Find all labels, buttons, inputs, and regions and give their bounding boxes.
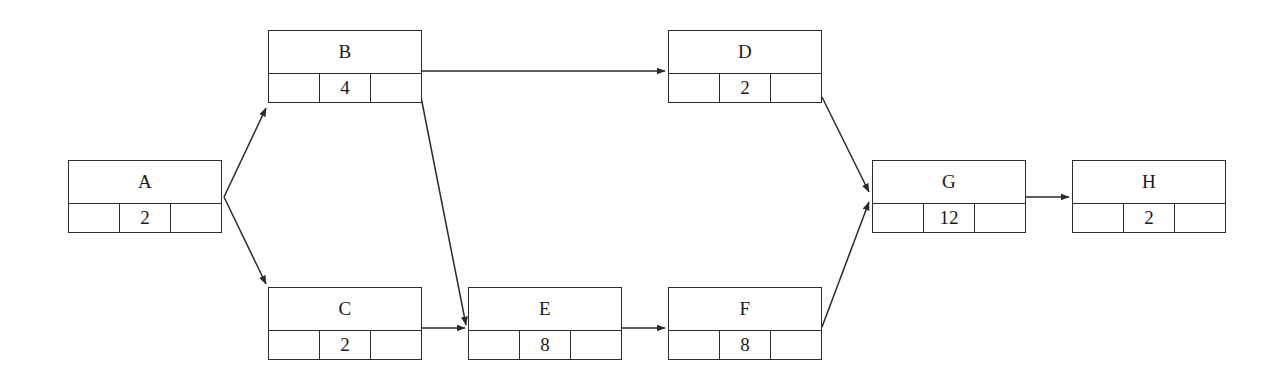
node-a[interactable]: A2 xyxy=(68,160,222,233)
node-h-left-cell xyxy=(1073,204,1123,232)
node-b-right-cell xyxy=(371,74,421,102)
node-a-right-cell xyxy=(171,204,221,232)
node-b-left-cell xyxy=(269,74,319,102)
node-b[interactable]: B4 xyxy=(268,30,422,103)
edge-d-to-g xyxy=(822,97,869,192)
node-e-left-cell xyxy=(469,331,519,359)
node-d-duration-cell: 2 xyxy=(719,74,771,102)
node-g-left-cell xyxy=(873,204,923,232)
node-g-cells: 12 xyxy=(873,203,1025,232)
node-d[interactable]: D2 xyxy=(668,30,822,103)
node-g-label: G xyxy=(873,161,1025,203)
node-e[interactable]: E8 xyxy=(468,287,622,360)
node-c-left-cell xyxy=(269,331,319,359)
edge-b-to-e xyxy=(421,97,466,325)
node-f-duration-cell: 8 xyxy=(719,331,771,359)
edge-f-to-g xyxy=(822,202,869,327)
edge-a-to-c xyxy=(224,197,266,284)
node-h-right-cell xyxy=(1175,204,1225,232)
node-c-duration-cell: 2 xyxy=(319,331,371,359)
node-h[interactable]: H2 xyxy=(1072,160,1226,233)
node-b-cells: 4 xyxy=(269,73,421,102)
node-c[interactable]: C2 xyxy=(268,287,422,360)
node-d-left-cell xyxy=(669,74,719,102)
node-f[interactable]: F8 xyxy=(668,287,822,360)
node-e-right-cell xyxy=(571,331,621,359)
node-d-label: D xyxy=(669,31,821,73)
node-f-cells: 8 xyxy=(669,330,821,359)
node-a-left-cell xyxy=(69,204,119,232)
node-c-cells: 2 xyxy=(269,330,421,359)
node-a-label: A xyxy=(69,161,221,203)
node-a-duration-cell: 2 xyxy=(119,204,171,232)
edge-a-to-b xyxy=(224,108,266,197)
node-d-cells: 2 xyxy=(669,73,821,102)
node-d-right-cell xyxy=(771,74,821,102)
node-e-cells: 8 xyxy=(469,330,621,359)
node-e-label: E xyxy=(469,288,621,330)
diagram-canvas: A2B4C2D2E8F8G12H2 xyxy=(0,0,1281,388)
node-e-duration-cell: 8 xyxy=(519,331,571,359)
node-b-duration-cell: 4 xyxy=(319,74,371,102)
node-g-right-cell xyxy=(975,204,1025,232)
node-h-duration-cell: 2 xyxy=(1123,204,1175,232)
node-h-cells: 2 xyxy=(1073,203,1225,232)
node-b-label: B xyxy=(269,31,421,73)
node-h-label: H xyxy=(1073,161,1225,203)
node-c-right-cell xyxy=(371,331,421,359)
node-f-right-cell xyxy=(771,331,821,359)
node-f-label: F xyxy=(669,288,821,330)
node-g[interactable]: G12 xyxy=(872,160,1026,233)
node-g-duration-cell: 12 xyxy=(923,204,975,232)
node-f-left-cell xyxy=(669,331,719,359)
node-c-label: C xyxy=(269,288,421,330)
node-a-cells: 2 xyxy=(69,203,221,232)
